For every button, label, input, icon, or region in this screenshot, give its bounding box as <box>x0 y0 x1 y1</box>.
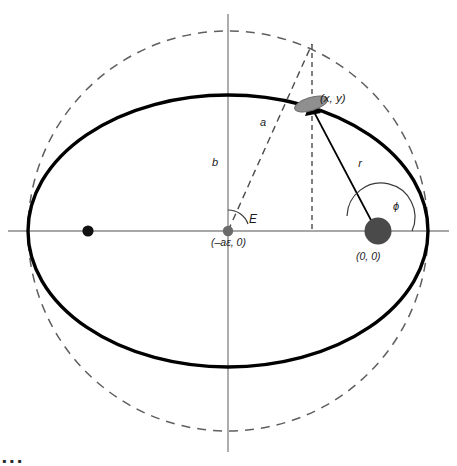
label-semi-minor: b <box>212 156 218 168</box>
label-true-anomaly: ϕ <box>393 200 399 212</box>
label-focus-coord: (0, 0) <box>356 250 381 262</box>
label-point-xy: (x, y) <box>320 92 346 104</box>
empty-focus-marker <box>82 225 93 236</box>
cropped-caption-text: ▪ ▪ ▪ <box>2 455 21 466</box>
sun-marker <box>365 218 392 245</box>
cropped-caption-strip: ▪ ▪ ▪ <box>0 455 457 466</box>
label-semi-major: a <box>260 116 266 128</box>
label-eccentric-anomaly: E <box>249 212 258 226</box>
ellipse-center-marker <box>223 226 233 236</box>
orbit-diagram: a b r E ϕ (x, y) (–aε, 0) (0, 0) <box>0 0 457 466</box>
label-ellipse-center-coord: (–aε, 0) <box>211 236 246 248</box>
